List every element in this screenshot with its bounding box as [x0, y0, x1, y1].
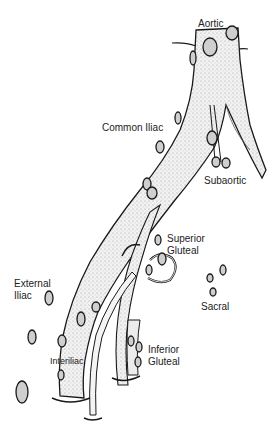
node-superior-gluteal-2 — [158, 253, 166, 265]
label-subaortic: Subaortic — [204, 175, 246, 186]
node-aortic-3 — [190, 51, 196, 65]
node-common-iliac-1 — [175, 112, 181, 124]
node-sacral-2 — [207, 274, 213, 282]
aorta — [59, 28, 266, 398]
node-aortic-2 — [226, 26, 238, 40]
label-inferior-gluteal-line1: Inferior — [148, 344, 179, 355]
label-superior-gluteal-line1: Superior — [167, 233, 205, 244]
node-interiliac-1 — [92, 302, 100, 312]
node-interiliac-3 — [58, 335, 66, 347]
node-external-iliac-3 — [16, 381, 28, 403]
node-external-iliac-2 — [28, 330, 36, 344]
node-subaortic-3 — [222, 158, 230, 168]
node-inferior-gluteal-3 — [135, 357, 141, 367]
pelvic-lymph-node-diagram: Aortic Common Iliac Subaortic Superior G… — [0, 0, 278, 436]
node-subaortic-1 — [207, 131, 217, 145]
label-external-iliac-line2: Iliac — [14, 290, 32, 301]
node-aortic-1 — [203, 38, 217, 56]
node-sacral-1 — [220, 265, 226, 275]
node-interiliac-2 — [77, 312, 85, 326]
node-inferior-gluteal-2 — [136, 342, 142, 352]
node-external-iliac-1 — [45, 291, 53, 305]
node-inferior-gluteal-1 — [128, 336, 134, 346]
node-common-iliac-2 — [156, 141, 164, 153]
node-superior-gluteal-1 — [155, 235, 161, 245]
node-superior-gluteal-3 — [146, 265, 152, 275]
label-aortic: Aortic — [198, 18, 224, 29]
label-inferior-gluteal-line2: Gluteal — [148, 356, 180, 367]
label-sacral: Sacral — [201, 301, 229, 312]
vessel-illustration — [0, 0, 278, 436]
node-subaortic-2 — [212, 157, 220, 167]
node-sacral-3 — [210, 288, 216, 296]
label-common-iliac: Common Iliac — [102, 122, 163, 133]
label-external-iliac-line1: External — [14, 278, 51, 289]
left-lumbar-branch — [172, 43, 196, 46]
label-superior-gluteal-line2: Gluteal — [167, 245, 199, 256]
node-common-iliac-4 — [147, 187, 157, 199]
node-interiliac-4 — [58, 370, 64, 380]
label-interiliac: Interiliac — [50, 356, 84, 367]
